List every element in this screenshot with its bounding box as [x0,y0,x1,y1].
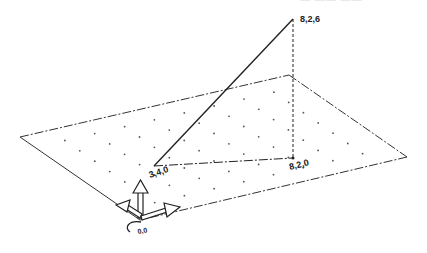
grid-dot [198,122,200,124]
grid-dot [228,143,230,145]
grid-dot [332,132,334,134]
grid-dot [154,202,156,204]
diagram-canvas: 8,2,6 3,4,0 8,2,0 0,0 [0,0,427,253]
grid-dot [109,171,111,173]
grid-dot [109,143,111,145]
grid-dot [124,126,126,128]
grid-dot [94,160,96,162]
ground-plane [20,75,407,220]
axis-gizmo[interactable]: 0,0 [116,180,180,236]
grid-dot [228,171,230,173]
grid-dot [94,133,96,135]
triangle-hypotenuse [154,19,293,166]
grid-dot [317,150,319,152]
y-axis-arrow-icon[interactable] [141,203,180,220]
grid-dot [362,153,364,155]
triangle-base-dashed [154,158,293,166]
grid-dot [228,115,230,117]
grid-dot [168,129,170,131]
grid-dot [243,126,245,128]
grid-dot [213,105,215,107]
grid-dot [139,136,141,138]
grid-dot [213,133,215,135]
grid-dot [243,98,245,100]
grid-dot [347,143,349,145]
grid-dot [184,195,186,197]
grid-dot [258,136,260,138]
grid-dot [302,139,304,141]
grid-dot [124,181,126,183]
grid-dot [303,112,305,114]
grid-dots [64,91,364,203]
grid-dot [168,157,170,159]
grid-dot [64,140,66,142]
grid-dot [124,153,126,155]
grid-dot [243,153,245,155]
grid-dot [317,122,319,124]
left-vertex-label: 3,4,0 [148,164,170,180]
apex-label: 8,2,6 [300,14,320,24]
base-right-label: 8,2,0 [288,157,310,172]
grid-dot [198,177,200,179]
grid-dot [332,160,334,162]
plane-edge [140,157,407,220]
grid-dot [154,119,156,121]
grid-dot [79,150,81,152]
grid-dot [198,150,200,152]
grid-dot [258,108,260,110]
grid-dot [273,119,275,121]
grid-dot [213,160,215,162]
grid-dot [183,112,185,114]
plane-edge [20,75,289,137]
grid-dot [273,146,275,148]
grid-dot [288,129,290,131]
grid-dot [154,146,156,148]
grid-dot [258,164,260,166]
grid-dot [139,164,141,166]
grid-dot [213,188,215,190]
grid-dot [183,167,185,169]
grid-dot [288,102,290,104]
grid-dot [169,184,171,186]
vertex-marker [292,157,295,160]
plane-edge [289,75,407,157]
origin-label: 0,0 [137,226,148,236]
grid-dot [273,174,275,176]
grid-dot [273,91,275,93]
grid-dot [183,140,185,142]
grid-dot [243,181,245,183]
